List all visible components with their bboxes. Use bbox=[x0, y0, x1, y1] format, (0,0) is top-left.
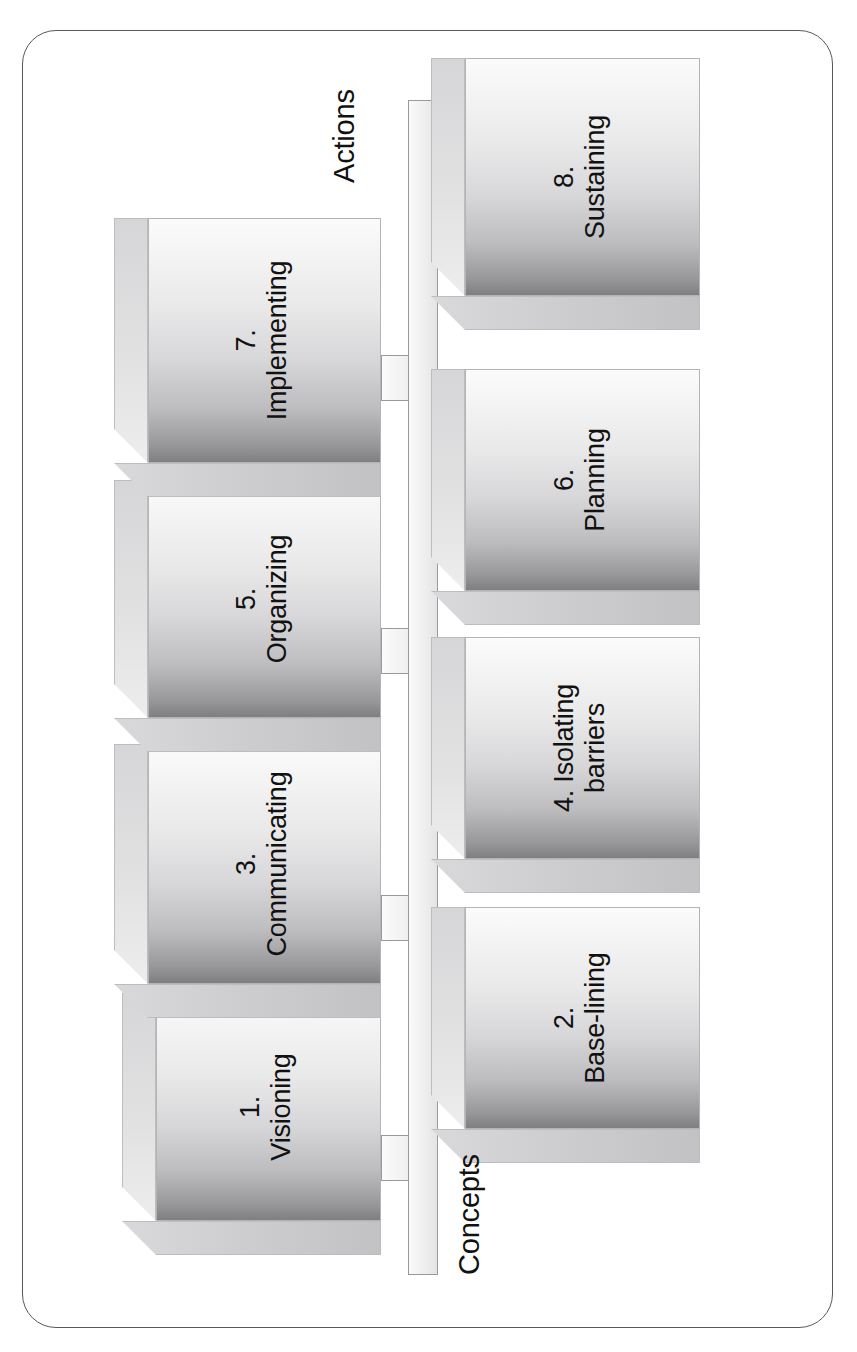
step-box-3[interactable]: 3. Communicating bbox=[148, 744, 381, 984]
step-box-6-top-face bbox=[431, 369, 465, 591]
step-box-3-side-face bbox=[114, 984, 381, 1018]
step-box-6-front-face bbox=[465, 369, 700, 591]
axis-label-actions: Actions bbox=[328, 89, 361, 183]
step-box-4-side-face bbox=[431, 859, 700, 893]
step-box-6-side-face bbox=[431, 591, 700, 625]
step-box-7-front-face bbox=[148, 218, 381, 463]
diagram-canvas: 1. Visioning 3. Communicating bbox=[78, 71, 778, 1281]
step-box-6[interactable]: 6. Planning bbox=[465, 369, 700, 591]
step-box-2[interactable]: 2. Base-lining bbox=[465, 907, 700, 1129]
step-box-1[interactable]: 1. Visioning bbox=[156, 993, 381, 1221]
step-box-7-side-face bbox=[114, 463, 381, 497]
step-box-1-side-face bbox=[122, 1221, 381, 1255]
step-box-8-side-face bbox=[431, 296, 700, 330]
connector-tab-step-1 bbox=[381, 1135, 409, 1181]
connector-tab-step-3 bbox=[381, 895, 409, 941]
step-box-8-top-face bbox=[431, 58, 465, 296]
connector-tab-step-5 bbox=[381, 628, 409, 674]
step-box-1-front-face bbox=[156, 993, 381, 1221]
step-box-8-front-face bbox=[465, 58, 700, 296]
step-box-2-top-face bbox=[431, 907, 465, 1129]
step-box-4-front-face bbox=[465, 637, 700, 859]
step-box-3-front-face bbox=[148, 744, 381, 984]
step-box-5[interactable]: 5. Organizing bbox=[148, 480, 381, 718]
step-box-1-top-face bbox=[122, 993, 156, 1221]
step-box-4[interactable]: 4. Isolating barriers bbox=[465, 637, 700, 859]
diagram-page: 1. Visioning 3. Communicating bbox=[0, 0, 857, 1352]
step-box-2-front-face bbox=[465, 907, 700, 1129]
step-box-5-front-face bbox=[148, 480, 381, 718]
step-box-5-side-face bbox=[114, 718, 381, 752]
step-box-8[interactable]: 8. Sustaining bbox=[465, 58, 700, 296]
axis-label-concepts: Concepts bbox=[453, 1154, 486, 1275]
step-box-5-top-face bbox=[114, 480, 148, 718]
step-box-7-top-face bbox=[114, 218, 148, 463]
step-box-3-top-face bbox=[114, 744, 148, 984]
step-box-4-top-face bbox=[431, 637, 465, 859]
step-box-7[interactable]: 7. Implementing bbox=[148, 218, 381, 463]
connector-tab-step-7 bbox=[381, 355, 409, 401]
